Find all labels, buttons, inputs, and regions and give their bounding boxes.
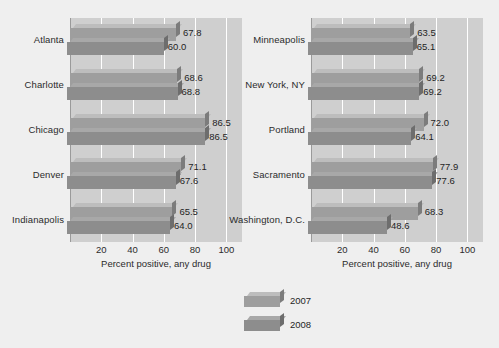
bar-2008-atlanta (67, 42, 164, 55)
value-label-2007-atlanta: 67.8 (183, 27, 202, 38)
right-panel-x-axis-label: Percent positive, any drug (311, 258, 483, 269)
chart-figure: AtlantaCharlotteChicagoDenverIndianapoli… (0, 0, 499, 348)
x-tick-label-80: 80 (431, 244, 442, 255)
value-label-2008-atlanta: 60.0 (168, 41, 187, 52)
x-tick-label-20: 20 (337, 244, 348, 255)
legend-item-2007: 2007 (236, 292, 356, 312)
bar-2008-chicago (67, 132, 205, 145)
category-label-sacramento: Sacramento (253, 169, 305, 180)
value-label-2008-washington-d-c: 48.6 (391, 220, 410, 231)
category-label-portland: Portland (269, 124, 305, 135)
value-label-2008-denver: 67.6 (180, 175, 199, 186)
legend-item-2008: 2008 (236, 316, 356, 336)
value-label-2008-chicago: 86.5 (209, 131, 228, 142)
value-label-2008-indianapolis: 64.0 (174, 220, 193, 231)
value-label-2007-washington-d-c: 68.3 (425, 206, 444, 217)
value-label-2007-minneapolis: 63.5 (417, 27, 436, 38)
chart-legend: 2007 2008 (236, 292, 356, 344)
panel-container: AtlantaCharlotteChicagoDenverIndianapoli… (0, 0, 499, 288)
category-label-minneapolis: Minneapolis (253, 34, 305, 45)
left-panel: AtlantaCharlotteChicagoDenverIndianapoli… (0, 0, 249, 288)
left-panel-x-axis: Percent positive, any drug 20406080100 (70, 242, 242, 272)
left-panel-category-labels: AtlantaCharlotteChicagoDenverIndianapoli… (0, 18, 68, 242)
legend-swatch-2007 (244, 296, 280, 307)
value-label-2007-portland: 72.0 (431, 117, 450, 128)
right-panel: MinneapolisNew York, NYPortlandSacrament… (249, 0, 498, 288)
value-label-2007-charlotte: 68.6 (184, 72, 203, 83)
bar-2008-minneapolis (308, 42, 413, 55)
value-label-2007-new-york-ny: 69.2 (426, 72, 445, 83)
x-tick-label-60: 60 (400, 244, 411, 255)
gridline-100 (467, 18, 468, 242)
right-panel-plot-area: 63.565.169.269.272.064.177.977.668.348.6 (311, 18, 483, 242)
value-label-2007-denver: 71.1 (188, 161, 207, 172)
category-label-indianapolis: Indianapolis (12, 214, 64, 225)
bar-2008-new-york-ny (308, 87, 419, 100)
legend-label-2007: 2007 (290, 295, 311, 306)
value-label-2008-portland: 64.1 (415, 131, 434, 142)
right-panel-x-axis: Percent positive, any drug 20406080100 (311, 242, 483, 272)
left-panel-x-axis-label: Percent positive, any drug (70, 258, 242, 269)
x-tick-label-60: 60 (159, 244, 170, 255)
x-tick-label-80: 80 (190, 244, 201, 255)
x-tick-label-20: 20 (96, 244, 107, 255)
category-label-new-york-ny: New York, NY (245, 79, 305, 90)
legend-swatch-2008 (244, 320, 280, 331)
category-label-atlanta: Atlanta (34, 34, 64, 45)
bar-2008-washington-d-c (308, 221, 387, 234)
category-label-washington-d-c: Washington, D.C. (229, 214, 305, 225)
bar-2008-denver (67, 176, 176, 189)
x-tick-label-40: 40 (127, 244, 138, 255)
right-panel-category-labels: MinneapolisNew York, NYPortlandSacrament… (241, 18, 309, 242)
value-label-2008-sacramento: 77.6 (436, 175, 455, 186)
value-label-2008-new-york-ny: 69.2 (423, 86, 442, 97)
category-label-denver: Denver (33, 169, 64, 180)
bar-2008-indianapolis (67, 221, 170, 234)
bar-2008-charlotte (67, 87, 178, 100)
legend-label-2008: 2008 (290, 319, 311, 330)
value-label-2007-chicago: 86.5 (212, 117, 231, 128)
x-tick-label-100: 100 (459, 244, 475, 255)
value-label-2008-minneapolis: 65.1 (417, 41, 436, 52)
x-tick-label-40: 40 (368, 244, 379, 255)
value-label-2008-charlotte: 68.8 (182, 86, 201, 97)
value-label-2007-indianapolis: 65.5 (179, 206, 198, 217)
category-label-charlotte: Charlotte (25, 79, 64, 90)
bar-2008-portland (308, 132, 411, 145)
value-label-2007-sacramento: 77.9 (440, 161, 459, 172)
x-tick-label-100: 100 (218, 244, 234, 255)
bar-2008-sacramento (308, 176, 432, 189)
category-label-chicago: Chicago (28, 124, 64, 135)
left-panel-plot-area: 67.860.068.668.886.586.571.167.665.564.0 (70, 18, 242, 242)
